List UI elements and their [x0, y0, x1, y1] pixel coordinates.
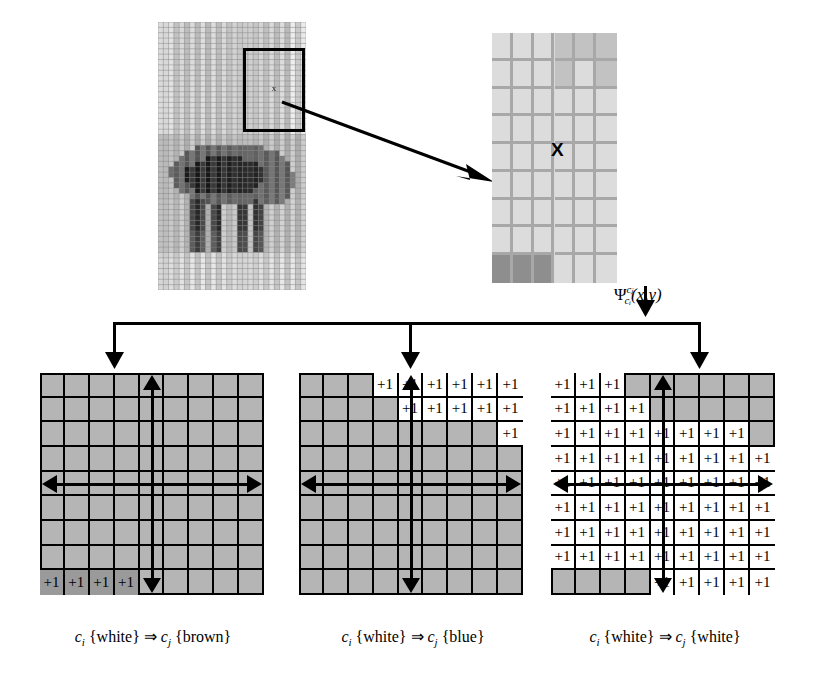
accumulator-cell-empty [349, 398, 374, 423]
caption-white: ci {white} ⇒ cj {white} [540, 627, 790, 648]
accumulator-cell-empty [349, 422, 374, 447]
accumulator-cell-empty [473, 447, 498, 472]
accumulator-cell-empty [700, 398, 725, 423]
accumulator-cell-empty [115, 546, 140, 571]
accumulator-cell-marked: +1 [551, 521, 576, 546]
accumulator-cell-empty [299, 422, 324, 447]
accumulator-cell-marked: +1 [750, 570, 775, 595]
accumulator-cell-empty [40, 373, 65, 398]
accumulator-cell-empty [299, 521, 324, 546]
accumulator-cell-marked: +1 [700, 422, 725, 447]
accumulator-cell-empty [423, 570, 448, 595]
accumulator-cell-empty [40, 398, 65, 423]
zoom-cell [555, 227, 576, 255]
accumulator-cell-empty [214, 373, 239, 398]
zoom-cell [513, 144, 534, 172]
caption-to: {white} [690, 628, 741, 645]
caption-arrow: ⇒ [144, 628, 157, 645]
zoom-cell [534, 33, 555, 61]
accumulator-cell-empty [423, 447, 448, 472]
accumulator-cell-empty [374, 422, 399, 447]
accumulator-cell-empty [498, 496, 523, 521]
accumulator-cell-empty [551, 570, 576, 595]
branch-drop-right [698, 322, 701, 356]
accumulator-cell-marked: +1 [700, 570, 725, 595]
accumulator-cell-marked: +1 [551, 447, 576, 472]
axis-arrow-up-icon [402, 375, 420, 390]
caption-ci-sub: i [349, 636, 352, 648]
accumulator-cell-empty [40, 521, 65, 546]
accumulator-cell-marked: +1 [626, 398, 651, 423]
accumulator-cell-marked: +1 [675, 546, 700, 571]
zoom-cell [596, 116, 617, 144]
accumulator-cell-empty [115, 496, 140, 521]
caption-ci: c [75, 628, 82, 645]
caption-ci: c [341, 628, 348, 645]
accumulator-cell-marked: +1 [374, 373, 399, 398]
accumulator-cell-marked: +1 [498, 422, 523, 447]
caption-blue: ci {white} ⇒ cj {blue} [288, 627, 538, 648]
accumulator-cell-empty [324, 398, 349, 423]
zoom-cell [492, 61, 513, 89]
zoom-cell [555, 61, 576, 89]
zoom-cell [534, 200, 555, 228]
horizontal-axis-line [307, 483, 515, 486]
accumulator-cell-marked: +1 [626, 496, 651, 521]
accumulator-cell-empty [349, 521, 374, 546]
accumulator-cell-empty [90, 422, 115, 447]
accumulator-cell-marked: +1 [65, 570, 90, 595]
axis-arrow-left-icon [301, 475, 316, 493]
accumulator-cell-marked: +1 [725, 546, 750, 571]
caption-cj: c [676, 628, 683, 645]
accumulator-cell-empty [750, 398, 775, 423]
accumulator-cell-empty [423, 422, 448, 447]
accumulator-cell-empty [164, 373, 189, 398]
branch-arrowhead-right-icon [690, 352, 710, 372]
accumulator-cell-empty [164, 422, 189, 447]
caption-cj-sub: j [435, 636, 438, 648]
accumulator-cell-empty [299, 546, 324, 571]
accumulator-cell-empty [214, 398, 239, 423]
accumulator-cell-empty [473, 570, 498, 595]
accumulator-cell-empty [214, 496, 239, 521]
axis-arrow-up-icon [654, 375, 672, 390]
zoom-cell [513, 255, 534, 283]
zoom-center-marker: X [551, 140, 564, 159]
branch-drop-middle [409, 322, 412, 356]
zoom-cell [596, 227, 617, 255]
zoom-cell [575, 200, 596, 228]
accumulator-cell-empty [725, 398, 750, 423]
accumulator-cell-marked: +1 [601, 496, 626, 521]
accumulator-cell-empty [189, 373, 214, 398]
accumulator-cell-empty [115, 373, 140, 398]
accumulator-cell-empty [214, 546, 239, 571]
zoom-cell [492, 89, 513, 117]
accumulator-cell-empty [214, 422, 239, 447]
accumulator-cell-marked: +1 [423, 373, 448, 398]
zoom-cell [596, 200, 617, 228]
accumulator-cell-empty [498, 447, 523, 472]
zoom-cell [534, 61, 555, 89]
caption-to: {blue} [442, 628, 485, 645]
zoom-cell [492, 116, 513, 144]
accumulator-cell-empty [374, 570, 399, 595]
zoom-cell [513, 200, 534, 228]
zoom-cell [513, 33, 534, 61]
zoom-cell [492, 227, 513, 255]
zoom-cell [513, 116, 534, 144]
accumulator-cell-empty [324, 422, 349, 447]
accumulator-cell-empty [626, 373, 651, 398]
accumulator-cell-empty [498, 546, 523, 571]
accumulator-cell-empty [189, 521, 214, 546]
accumulator-cell-empty [115, 447, 140, 472]
accumulator-cell-empty [164, 496, 189, 521]
accumulator-cell-empty [349, 496, 374, 521]
accumulator-cell-marked: +1 [576, 496, 601, 521]
accumulator-cell-empty [448, 570, 473, 595]
accumulator-cell-empty [299, 496, 324, 521]
accumulator-cell-empty [90, 521, 115, 546]
accumulator-cell-empty [40, 422, 65, 447]
accumulator-cell-empty [473, 521, 498, 546]
zoom-cell [575, 116, 596, 144]
accumulator-cell-empty [65, 496, 90, 521]
